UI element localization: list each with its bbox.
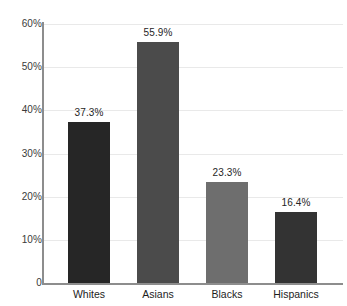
y-tick-label-60pct: 60% xyxy=(22,19,42,29)
gridline-50 xyxy=(44,67,343,68)
y-tick-label-50pct: 50% xyxy=(22,62,42,72)
bar-chart: 010%20%30%40%50%60% 37.3%55.9%23.3%16.4%… xyxy=(0,0,347,306)
bar-value-label-asians: 55.9% xyxy=(125,28,191,38)
bar-whites xyxy=(68,122,110,283)
bar-blacks xyxy=(206,182,248,283)
x-axis-label-whites: Whites xyxy=(49,288,129,300)
y-axis-line xyxy=(42,22,44,284)
y-tick-label-10pct: 10% xyxy=(22,235,42,245)
bar-hispanics xyxy=(275,212,317,283)
x-axis-line xyxy=(42,283,343,285)
x-axis-label-blacks: Blacks xyxy=(187,288,267,300)
bar-value-label-whites: 37.3% xyxy=(56,108,122,118)
y-tick-label-40pct: 40% xyxy=(22,105,42,115)
gridline-60 xyxy=(44,24,343,25)
y-tick-label-20pct: 20% xyxy=(22,192,42,202)
y-tick-label-30pct: 30% xyxy=(22,149,42,159)
bar-value-label-hispanics: 16.4% xyxy=(263,198,329,208)
x-axis-label-asians: Asians xyxy=(118,288,198,300)
bar-value-label-blacks: 23.3% xyxy=(194,168,260,178)
x-axis-label-hispanics: Hispanics xyxy=(256,288,336,300)
bar-asians xyxy=(137,42,179,283)
